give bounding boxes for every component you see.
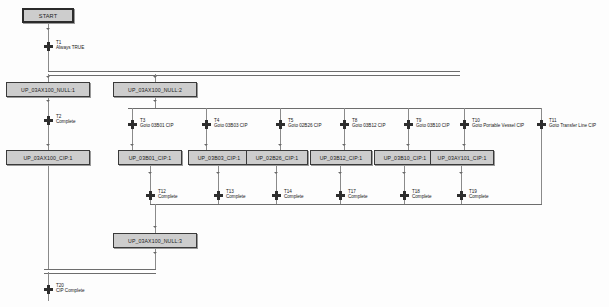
link-cip03b01-to-t12 bbox=[150, 165, 151, 191]
transition-desc: Goto 03B12 CIP bbox=[352, 123, 385, 128]
transition-t8[interactable] bbox=[340, 120, 349, 129]
transition-t5[interactable] bbox=[276, 120, 285, 129]
transition-desc: Complete bbox=[158, 194, 178, 199]
transition-label-t5: T5 Goto 02B26 CIP bbox=[288, 118, 321, 129]
link-cip-ax100-to-rail4 bbox=[48, 165, 49, 269]
transition-t3[interactable] bbox=[128, 120, 137, 129]
link-arrow bbox=[204, 144, 208, 146]
link-null2-to-rail2 bbox=[155, 97, 156, 108]
transition-t14[interactable] bbox=[272, 191, 281, 200]
transition-t13[interactable] bbox=[214, 191, 223, 200]
link-arrow bbox=[216, 172, 220, 174]
transition-bar-icon bbox=[343, 120, 346, 129]
transition-label-t9: T9 Goto 03B10 CIP bbox=[416, 118, 449, 129]
transition-label-t11: T11 Goto Transfer Line CIP bbox=[549, 118, 596, 129]
branch-line-t3 bbox=[132, 108, 133, 120]
link-arrow bbox=[153, 252, 157, 254]
transition-bar-icon bbox=[407, 120, 410, 129]
step-label: UP_03AX100_CIP:1 bbox=[23, 155, 72, 161]
step-label: UP_02B26_CIP:1 bbox=[256, 155, 299, 161]
transition-label-t13: T13 Complete bbox=[226, 189, 246, 200]
link-t2-to-cip-ax100 bbox=[48, 125, 49, 150]
transition-bar-icon bbox=[47, 42, 50, 51]
step-label: UP_03AX100_NULL:3 bbox=[128, 238, 182, 244]
step-label: UP_03AX100_NULL:1 bbox=[21, 87, 75, 93]
transition-bar-icon bbox=[463, 120, 466, 129]
transition-bar-icon bbox=[47, 116, 50, 125]
step-up-02b26-cip-1[interactable]: UP_02B26_CIP:1 bbox=[246, 150, 308, 165]
step-up-03ax100-null-3[interactable]: UP_03AX100_NULL:3 bbox=[113, 233, 197, 248]
link-arrow bbox=[153, 226, 157, 228]
step-label: UP_03B12_CIP:1 bbox=[320, 155, 363, 161]
transition-t20[interactable] bbox=[44, 285, 53, 294]
convergence-rail-3 bbox=[150, 204, 542, 205]
transition-t10[interactable] bbox=[460, 120, 469, 129]
link-arrow bbox=[46, 28, 50, 30]
transition-t9[interactable] bbox=[404, 120, 413, 129]
transition-desc: Goto 03B10 CIP bbox=[416, 123, 449, 128]
branch-line-t9 bbox=[408, 108, 409, 120]
link-t5-to-cip02b26 bbox=[280, 129, 281, 150]
link-arrow bbox=[459, 172, 463, 174]
link-t4-to-cip03b03 bbox=[206, 129, 207, 150]
transition-bar-icon bbox=[540, 120, 543, 129]
link-t9-to-cip03b10 bbox=[408, 129, 409, 150]
transition-t2[interactable] bbox=[44, 116, 53, 125]
link-arrow bbox=[274, 172, 278, 174]
branch-line-t10 bbox=[464, 108, 465, 120]
link-arrow bbox=[148, 172, 152, 174]
link-rail3-to-null3 bbox=[155, 204, 156, 233]
transition-bar-icon bbox=[403, 191, 406, 200]
branch-line-t5 bbox=[280, 108, 281, 120]
transition-label-t8: T8 Goto 03B12 CIP bbox=[352, 118, 385, 129]
transition-bar-icon bbox=[217, 191, 220, 200]
step-up-03b01-cip-1[interactable]: UP_03B01_CIP:1 bbox=[118, 150, 182, 165]
sfc-diagram-canvas: START UP_03AX100_NULL:1 UP_03AX100_NULL:… bbox=[0, 0, 609, 307]
transition-desc: Goto 03B01 CIP bbox=[140, 123, 173, 128]
divergence-rail-2 bbox=[128, 108, 542, 109]
transition-desc: Goto 02B26 CIP bbox=[288, 123, 321, 128]
link-arrow bbox=[153, 100, 157, 102]
link-arrow bbox=[338, 172, 342, 174]
transition-desc: Complete bbox=[226, 194, 246, 199]
step-up-03ax100-null-2[interactable]: UP_03AX100_NULL:2 bbox=[113, 82, 197, 97]
link-t20-out bbox=[48, 294, 49, 301]
link-arrow bbox=[46, 100, 50, 102]
link-cip03ay101-to-t19 bbox=[461, 165, 462, 191]
step-up-03ay101-cip-1[interactable]: UP_03AY101_CIP:1 bbox=[430, 150, 494, 165]
step-up-03b12-cip-1[interactable]: UP_03B12_CIP:1 bbox=[310, 150, 372, 165]
transition-desc: Goto 03B03 CIP bbox=[214, 123, 247, 128]
link-t3-to-cip03b01 bbox=[132, 129, 133, 150]
link-cip03b03-to-t13 bbox=[218, 165, 219, 191]
transition-t18[interactable] bbox=[400, 191, 409, 200]
step-label: UP_03AX100_NULL:2 bbox=[128, 87, 182, 93]
transition-desc: CIP Complete bbox=[56, 288, 85, 293]
transition-desc: Complete bbox=[469, 194, 489, 199]
transition-desc: Complete bbox=[56, 119, 76, 124]
step-up-03b10-cip-1[interactable]: UP_03B10_CIP:1 bbox=[374, 150, 436, 165]
transition-label-t1: T1 Always TRUE bbox=[56, 40, 84, 51]
step-label: UP_03AY101_CIP:1 bbox=[438, 155, 487, 161]
link-t8-to-cip03b12 bbox=[344, 129, 345, 150]
transition-label-t14: T14 Complete bbox=[284, 189, 304, 200]
step-up-03ax100-null-1[interactable]: UP_03AX100_NULL:1 bbox=[6, 82, 90, 97]
link-t10-to-cip03ay101 bbox=[464, 129, 465, 150]
step-label: UP_03B10_CIP:1 bbox=[384, 155, 427, 161]
step-start[interactable]: START bbox=[22, 8, 74, 23]
branch-line-t8 bbox=[344, 108, 345, 120]
transition-label-t2: T2 Complete bbox=[56, 114, 76, 125]
transition-t1[interactable] bbox=[44, 42, 53, 51]
transition-label-t17: T17 Complete bbox=[348, 189, 368, 200]
transition-bar-icon bbox=[205, 120, 208, 129]
transition-t19[interactable] bbox=[457, 191, 466, 200]
transition-t4[interactable] bbox=[202, 120, 211, 129]
link-cip03b12-to-t17 bbox=[340, 165, 341, 191]
transition-label-t3: T3 Goto 03B01 CIP bbox=[140, 118, 173, 129]
link-cip03b10-to-t18 bbox=[404, 165, 405, 191]
transition-t17[interactable] bbox=[336, 191, 345, 200]
step-up-03ax100-cip-1[interactable]: UP_03AX100_CIP:1 bbox=[6, 150, 90, 165]
step-up-03b03-cip-1[interactable]: UP_03B03_CIP:1 bbox=[188, 150, 250, 165]
transition-t11[interactable] bbox=[537, 120, 546, 129]
step-label: START bbox=[39, 13, 57, 19]
transition-t12[interactable] bbox=[146, 191, 155, 200]
